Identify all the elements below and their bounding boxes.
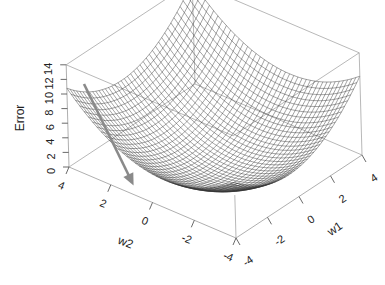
mesh-line (127, 50, 252, 160)
w1-tick-label: -4 (240, 253, 255, 268)
mesh-line (75, 0, 200, 104)
z-tick-label: 4 (44, 139, 56, 145)
w1-tick (362, 155, 366, 162)
w2-tick-label: 0 (140, 214, 150, 227)
box-edge (192, 0, 359, 53)
z-tick-label: 8 (43, 110, 55, 116)
surface-plot: 02468101214420-2-4-4-2024 Error w2 w1 (0, 0, 385, 285)
w2-tick-label: 2 (98, 196, 108, 209)
axes: 02468101214420-2-4-4-2024 (42, 63, 379, 269)
w2-tick-label: -2 (180, 231, 194, 246)
w1-tick-label: 2 (336, 192, 348, 205)
w2-tick-label: 4 (56, 179, 66, 192)
z-tick-label: 6 (44, 124, 56, 130)
error-surface-mesh (67, 0, 360, 192)
w1-tick (268, 217, 272, 224)
w1-tick (331, 176, 335, 183)
mesh-line (73, 90, 241, 190)
w2-tick-label: -4 (222, 249, 236, 264)
w2-tick (66, 167, 69, 174)
w1-tick (299, 197, 303, 204)
z-axis-line (66, 65, 69, 167)
w2-axis-label: w2 (115, 233, 136, 252)
mesh-line (101, 26, 226, 136)
box-edge (235, 195, 236, 238)
mesh-line (189, 0, 357, 88)
mesh-line (162, 38, 330, 138)
z-tick-label: 0 (45, 168, 57, 174)
mesh-line (143, 63, 268, 173)
w2-tick (108, 185, 111, 192)
w2-tick (150, 203, 153, 210)
w1-tick-label: 0 (305, 212, 317, 225)
w2-tick (191, 220, 194, 227)
mesh-line (174, 18, 342, 118)
mesh-line (164, 74, 289, 184)
z-tick-label: 14 (42, 63, 54, 75)
z-tick-label: 2 (45, 153, 57, 159)
mesh-line (186, 0, 354, 95)
mesh-line (198, 82, 323, 192)
mesh-line (183, 1, 351, 101)
box-edge (359, 53, 362, 155)
z-tick-label: 12 (43, 77, 55, 89)
mesh-line (152, 50, 320, 150)
mesh-line (149, 54, 317, 154)
w1-tick (236, 238, 240, 245)
w1-tick-label: 4 (368, 171, 380, 184)
w1-tick-label: -2 (272, 232, 287, 247)
w2-tick (233, 238, 236, 245)
z-axis-label: Error (13, 105, 27, 132)
w1-axis-label: w1 (324, 218, 346, 239)
mesh-line (140, 65, 308, 165)
mesh-line (114, 39, 239, 149)
z-tick-label: 10 (43, 92, 55, 104)
